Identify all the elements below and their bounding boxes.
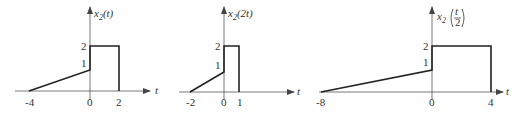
t-axis-label: t (506, 85, 510, 97)
tick-label: -2 (186, 96, 195, 108)
signal-waveform (321, 46, 491, 92)
tick-label: -4 (25, 96, 35, 108)
t-axis-label: t (297, 85, 301, 97)
plot-x2-t: x2(t) t -4 0 2 1 2 (15, 7, 159, 108)
tick-label: 1 (423, 56, 429, 68)
tick-label: 1 (215, 59, 221, 71)
plot-x2-2t: x2(2t) t -2 0 1 1 2 (179, 7, 301, 108)
tick-label: 0 (87, 96, 93, 108)
tick-label: -8 (316, 96, 326, 108)
tick-label: 2 (116, 96, 122, 108)
y-axis-label: x2(2t) (227, 7, 253, 22)
plot-x2-t-over-2: x2 t 2 t -8 0 4 1 2 (316, 5, 510, 108)
t-axis-label: t (155, 84, 159, 96)
tick-label: 1 (81, 57, 87, 69)
y-axis-label: x2 t 2 (436, 5, 464, 28)
tick-label: 0 (221, 96, 227, 108)
tick-label: 2 (215, 40, 221, 52)
signal-diagram: x2(t) t -4 0 2 1 2 x2(2t) t -2 0 1 1 2 x… (0, 0, 517, 118)
tick-label: 2 (423, 40, 429, 52)
tick-label: 0 (429, 96, 435, 108)
svg-text:x2: x2 (436, 10, 446, 25)
tick-label: 2 (81, 40, 87, 52)
tick-label: 1 (237, 96, 243, 108)
tick-label: 4 (488, 96, 494, 108)
signal-waveform (29, 46, 119, 91)
y-axis-label: x2(t) (93, 7, 114, 22)
svg-text:2: 2 (455, 16, 461, 28)
